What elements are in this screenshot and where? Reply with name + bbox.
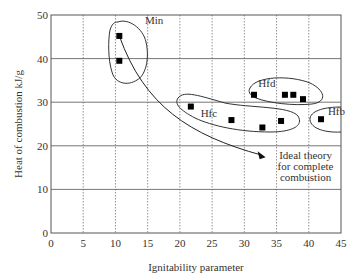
scatter-chart: 05101520253035404501020304050 MinHfcHfdH… (0, 0, 363, 276)
x-tick-label: 15 (142, 237, 154, 249)
data-point-hfd (282, 92, 288, 98)
arrowhead-icon (258, 151, 266, 159)
y-tick-label: 20 (37, 140, 49, 152)
region-hfc (177, 94, 300, 132)
axes (51, 15, 341, 233)
x-tick-label: 0 (48, 237, 54, 249)
y-tick-label: 50 (37, 9, 49, 21)
data-point-min (116, 33, 122, 39)
x-tick-label: 20 (174, 237, 186, 249)
annotation-ideal-theory: combustion (280, 171, 332, 183)
data-point-hfd (251, 92, 257, 98)
x-tick-label: 35 (271, 237, 283, 249)
annotation-labels: MinHfcHfdHfbIdeal theoryfor completecomb… (145, 14, 346, 183)
label-hfb: Hfb (328, 105, 346, 117)
x-tick-label: 30 (239, 237, 251, 249)
data-point-hfc (259, 124, 265, 130)
x-tick-label: 10 (110, 237, 122, 249)
x-tick-label: 5 (80, 237, 86, 249)
data-point-hfd (300, 96, 306, 102)
x-tick-label: 40 (303, 237, 315, 249)
x-tick-label: 45 (336, 237, 348, 249)
region-min (109, 21, 148, 83)
y-tick-label: 10 (37, 183, 49, 195)
data-point-hfc (228, 117, 234, 123)
x-tick-label: 25 (207, 237, 219, 249)
data-point-hfb (318, 116, 324, 122)
group-regions (109, 21, 341, 132)
grid-lines (51, 15, 341, 233)
y-tick-label: 40 (37, 53, 49, 65)
y-tick-label: 30 (37, 96, 49, 108)
plot-frame (51, 15, 341, 233)
ideal-theory-arrow (119, 36, 265, 159)
data-point-hfc (278, 118, 284, 124)
data-point-min (116, 58, 122, 64)
label-hfd: Hfd (258, 77, 276, 89)
y-tick-label: 0 (43, 227, 49, 239)
label-hfc: Hfc (201, 107, 218, 119)
arrow-line (119, 36, 261, 155)
y-axis-label: Heat of combustion kJ/g (12, 70, 24, 178)
label-min: Min (145, 14, 164, 26)
data-point-hfc (188, 104, 194, 110)
x-axis-label: Ignitability parameter (148, 261, 244, 273)
data-point-hfd (290, 92, 296, 98)
